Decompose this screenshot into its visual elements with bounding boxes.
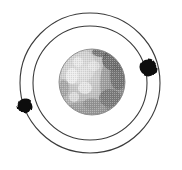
planet-surface-features — [55, 45, 136, 124]
planet-orbit-illustration — [0, 0, 182, 170]
planet-group — [55, 45, 136, 124]
moon-right — [140, 60, 157, 77]
halftone-overlay — [55, 45, 131, 121]
moon-left — [18, 99, 33, 114]
illustration-canvas — [0, 0, 182, 170]
